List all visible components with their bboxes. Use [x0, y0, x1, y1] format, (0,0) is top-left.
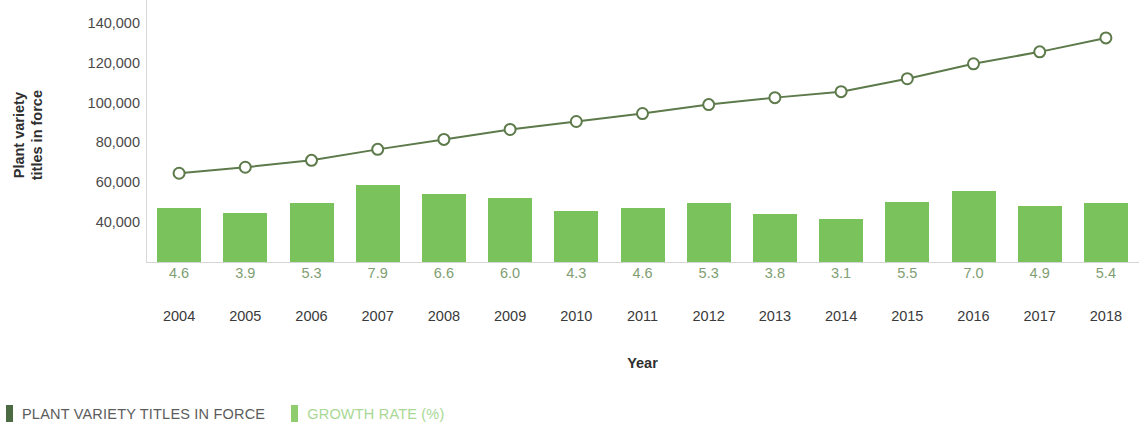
growth-rate-value-labels: 4.63.95.37.96.66.04.34.65.33.83.15.57.04…: [146, 265, 1139, 291]
y-axis-tick-label: 100,000: [88, 95, 140, 111]
legend-label: PLANT VARIETY TITLES IN FORCE: [22, 406, 265, 422]
legend-item[interactable]: GROWTH RATE (%): [291, 405, 444, 422]
line-marker: [1100, 32, 1111, 43]
line-marker: [637, 108, 648, 119]
growth-rate-value: 4.6: [632, 265, 652, 281]
line-marker: [505, 124, 516, 135]
line-marker: [836, 86, 847, 97]
y-axis-tick-label: 60,000: [96, 174, 140, 190]
line-marker: [703, 99, 714, 110]
line-marker: [240, 162, 251, 173]
x-axis-year-label: 2005: [229, 308, 261, 324]
y-axis-tick-labels: 140,000120,000100,00080,00060,00040,000: [58, 0, 140, 270]
line-marker: [1034, 46, 1045, 57]
growth-rate-value: 7.9: [368, 265, 388, 281]
growth-rate-value: 4.6: [169, 265, 189, 281]
legend-label: GROWTH RATE (%): [307, 406, 444, 422]
line-marker: [174, 168, 185, 179]
growth-rate-value: 5.3: [301, 265, 321, 281]
y-axis-title-line-2: titles in force: [28, 90, 46, 180]
growth-rate-value: 5.5: [897, 265, 917, 281]
line-series-svg: [146, 0, 1139, 263]
growth-rate-value: 5.3: [699, 265, 719, 281]
line-marker: [438, 134, 449, 145]
line-marker: [571, 116, 582, 127]
x-axis-year-label: 2011: [627, 308, 658, 324]
y-axis-tick-label: 80,000: [96, 134, 140, 150]
chart-legend: PLANT VARIETY TITLES IN FORCEGROWTH RATE…: [6, 405, 444, 422]
line-marker: [372, 144, 383, 155]
legend-item[interactable]: PLANT VARIETY TITLES IN FORCE: [6, 405, 265, 422]
x-axis-year-label: 2008: [428, 308, 460, 324]
y-axis-title: Plant variety titles in force: [2, 60, 54, 210]
x-axis-year-label: 2013: [759, 308, 791, 324]
growth-rate-value: 4.3: [566, 265, 586, 281]
x-axis-year-label: 2006: [295, 308, 327, 324]
growth-rate-value: 3.9: [235, 265, 255, 281]
y-axis-tick-label: 140,000: [88, 15, 140, 31]
legend-swatch-icon: [291, 405, 298, 422]
line-path: [179, 38, 1106, 173]
line-marker: [769, 92, 780, 103]
plant-variety-chart: Plant variety titles in force 140,000120…: [0, 0, 1147, 432]
line-marker: [902, 73, 913, 84]
line-marker: [306, 155, 317, 166]
plot-area: [146, 0, 1139, 263]
x-axis-title: Year: [146, 355, 1139, 371]
line-series-titles-in-force: [146, 0, 1139, 263]
x-axis-year-label: 2014: [825, 308, 857, 324]
growth-rate-value: 7.0: [963, 265, 983, 281]
growth-rate-value: 3.1: [831, 265, 851, 281]
x-axis-year-label: 2018: [1090, 308, 1122, 324]
legend-swatch-icon: [6, 405, 13, 422]
x-axis-line: [146, 262, 1139, 263]
y-axis-tick-label: 120,000: [88, 55, 140, 71]
growth-rate-value: 3.8: [765, 265, 785, 281]
x-axis-year-label: 2004: [163, 308, 195, 324]
growth-rate-value: 4.9: [1030, 265, 1050, 281]
x-axis-year-label: 2012: [693, 308, 725, 324]
x-axis-year-labels: 2004200520062007200820092010201120122013…: [146, 308, 1139, 334]
x-axis-year-label: 2009: [494, 308, 526, 324]
x-axis-year-label: 2015: [891, 308, 923, 324]
line-marker: [968, 58, 979, 69]
y-axis-title-line-1: Plant variety: [10, 90, 28, 180]
growth-rate-value: 6.0: [500, 265, 520, 281]
x-axis-year-label: 2007: [362, 308, 394, 324]
x-axis-year-label: 2016: [957, 308, 989, 324]
growth-rate-value: 6.6: [434, 265, 454, 281]
growth-rate-value: 5.4: [1096, 265, 1116, 281]
x-axis-year-label: 2010: [560, 308, 592, 324]
y-axis-tick-label: 40,000: [96, 214, 140, 230]
x-axis-year-label: 2017: [1024, 308, 1056, 324]
